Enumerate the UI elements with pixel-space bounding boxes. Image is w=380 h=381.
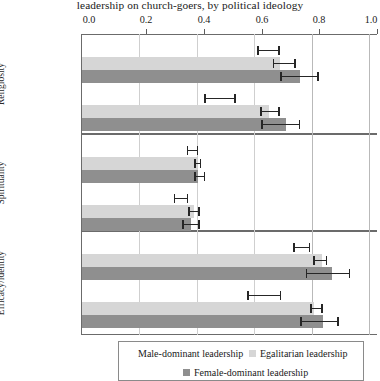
error-bar-female-dominant [261,124,300,126]
error-cap-male-dominant-high [280,291,282,300]
bar-row-egalitarian [82,205,377,218]
group-liberals: Liberals [82,289,377,329]
legend-item-female: Female-dominant leadership [183,367,308,378]
x-tick-mark-1.0 [377,29,378,34]
bar-row-female-dominant [82,170,377,183]
x-tick-label-4: 0.8 [313,14,326,25]
error-cap-female-dominant-low [300,317,302,326]
error-cap-female-dominant-low [182,220,184,229]
error-bar-egalitarian [260,111,280,113]
error-bar-male-dominant [293,247,310,249]
bar-row-male-dominant [82,144,377,157]
legend-swatch-male-icon [127,350,134,357]
group-liberals: Liberals [82,192,377,231]
error-cap-female-dominant-low [280,72,282,81]
group-conservatives: Conservatives [82,44,377,84]
x-tick-label-1: 0.2 [140,14,153,25]
bar-row-female-dominant [82,70,377,83]
bar-row-female-dominant [82,267,377,280]
bar-row-male-dominant [82,289,377,302]
bar-female-dominant [82,70,300,83]
panel-plot-area: ConservativesLiberals [82,34,377,134]
chart-title: leadership on church-goers, by political… [0,0,380,11]
bar-row-female-dominant [82,218,377,231]
legend-label-female: Female-dominant leadership [194,367,308,378]
error-bar-female-dominant [182,224,199,226]
error-cap-male-dominant-high [309,243,311,252]
error-cap-egalitarian-low [194,159,196,168]
error-cap-egalitarian-low [313,256,315,265]
error-cap-egalitarian-high [200,159,202,168]
x-axis-tick-labels: 0.0 0.2 0.4 0.6 0.8 1.0 [0,14,380,27]
panel-religiosity: ReligiosityConservativesLiberals [8,34,377,134]
panel-strip-text: Spirituality [0,161,6,204]
error-cap-egalitarian-high [326,256,328,265]
bar-row-female-dominant [82,118,377,131]
bar-egalitarian [82,157,197,170]
error-bar-female-dominant [280,76,319,78]
panel-strip-label: Efficacy/identity [8,231,82,335]
panel-spirituality: SpiritualityConservativesLiberals [8,134,377,231]
error-cap-egalitarian-high [321,304,323,313]
error-bar-female-dominant [300,321,339,323]
error-cap-female-dominant-high [198,220,200,229]
error-cap-female-dominant-high [204,172,206,181]
error-cap-female-dominant-high [349,269,351,278]
error-cap-male-dominant-low [187,146,189,155]
panel-strip-label: Spirituality [8,134,82,231]
legend-row-2: Female-dominant leadership [119,367,363,381]
legend-row-1: Male-dominant leadership Egalitarian lea… [119,348,363,365]
legend-item-egalitarian: Egalitarian leadership [249,348,347,359]
error-cap-female-dominant-high [337,317,339,326]
bar-row-female-dominant [82,315,377,328]
group-conservatives: Conservatives [82,241,377,281]
bar-row-male-dominant [82,241,377,254]
bar-row-egalitarian [82,105,377,118]
group-liberals: Liberals [82,92,377,132]
error-cap-male-dominant-high [187,194,189,203]
legend-swatch-female-icon [183,369,190,376]
error-cap-male-dominant-low [257,46,259,55]
legend-item-male: Male-dominant leadership [127,348,243,359]
bar-female-dominant [82,218,191,231]
bar-egalitarian [82,105,269,118]
panel-strip-text: Religiosity [0,63,6,105]
bar-row-male-dominant [82,192,377,205]
error-cap-male-dominant-high [278,46,280,55]
error-bar-female-dominant [306,273,350,275]
bar-female-dominant [82,118,286,131]
error-cap-egalitarian-low [273,59,275,68]
error-cap-male-dominant-low [174,194,176,203]
error-cap-egalitarian-low [310,304,312,313]
error-cap-egalitarian-low [260,107,262,116]
error-cap-female-dominant-low [194,172,196,181]
bar-row-egalitarian [82,157,377,170]
error-cap-male-dominant-low [247,291,249,300]
panel-strip-text: Efficacy/identity [0,251,6,315]
x-tick-label-5: 1.0 [365,14,378,25]
panel-plot-area: ConservativesLiberals [82,231,377,335]
error-cap-male-dominant-low [293,243,295,252]
chart-panels: ReligiosityConservativesLiberalsSpiritua… [8,34,377,335]
error-cap-egalitarian-high [198,207,200,216]
panel-strip-label: Religiosity [8,34,82,134]
bar-egalitarian [82,57,280,70]
bar-row-egalitarian [82,57,377,70]
x-tick-label-0: 0.0 [83,14,96,25]
x-tick-label-3: 0.6 [256,14,269,25]
bar-row-egalitarian [82,302,377,315]
bar-female-dominant [82,315,323,328]
error-cap-male-dominant-low [204,94,206,103]
panel-plot-area: ConservativesLiberals [82,134,377,231]
error-cap-female-dominant-high [317,72,319,81]
bar-female-dominant [82,170,198,183]
error-cap-female-dominant-low [261,120,263,129]
panel-efficacy-identity: Efficacy/identityConservativesLiberals [8,231,377,335]
bar-egalitarian [82,254,322,267]
chart-legend: Male-dominant leadership Egalitarian lea… [118,341,364,381]
error-cap-male-dominant-high [234,94,236,103]
bar-egalitarian [82,205,194,218]
error-bar-male-dominant [257,50,280,52]
bar-female-dominant [82,267,332,280]
